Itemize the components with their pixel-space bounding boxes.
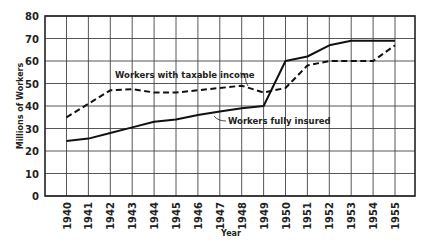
x-tick-label: 1945 xyxy=(171,202,182,230)
x-tick-label: 1940 xyxy=(62,202,73,230)
y-tick-label: 40 xyxy=(25,101,39,112)
y-axis-ticks: 01020304050607080 xyxy=(25,11,39,202)
x-tick-label: 1948 xyxy=(237,202,248,230)
y-tick-label: 30 xyxy=(25,124,39,135)
y-tick-label: 80 xyxy=(25,11,39,22)
y-tick-label: 20 xyxy=(25,146,39,157)
x-axis-ticks: 1940194119421943194419451946194719481949… xyxy=(62,202,402,230)
x-tick-label: 1955 xyxy=(390,202,401,230)
x-tick-label: 1943 xyxy=(127,202,138,230)
x-tick-label: 1941 xyxy=(83,202,94,230)
x-tick-label: 1949 xyxy=(259,202,270,230)
x-tick-label: 1944 xyxy=(149,202,160,230)
y-tick-label: 0 xyxy=(32,191,39,202)
grid-lines xyxy=(45,16,415,196)
annotation-taxable-income: Workers with taxable income xyxy=(115,70,255,80)
x-tick-label: 1954 xyxy=(368,202,379,230)
x-tick-label: 1950 xyxy=(281,202,292,230)
y-tick-label: 10 xyxy=(25,169,39,180)
annotation-fully-insured: Workers fully insured xyxy=(228,116,331,126)
x-tick-label: 1951 xyxy=(302,202,313,230)
line-chart: 01020304050607080 1940194119421943194419… xyxy=(0,0,427,244)
y-tick-label: 50 xyxy=(25,79,39,90)
y-tick-label: 60 xyxy=(25,56,39,67)
series-taxable-income-line xyxy=(67,45,396,117)
x-tick-label: 1953 xyxy=(346,202,357,230)
x-tick-label: 1946 xyxy=(193,202,204,230)
x-tick-label: 1952 xyxy=(324,202,335,230)
y-axis-label: Millions of Workers xyxy=(16,62,25,149)
y-tick-label: 70 xyxy=(25,34,39,45)
x-tick-label: 1942 xyxy=(105,202,116,230)
x-tick-label: 1947 xyxy=(215,202,226,230)
x-axis-label: Year xyxy=(220,229,241,238)
